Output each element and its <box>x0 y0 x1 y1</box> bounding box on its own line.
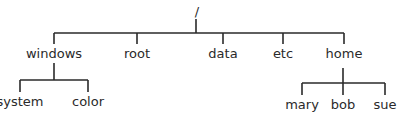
node-root: / <box>195 5 199 18</box>
node-windows: windows <box>26 47 82 60</box>
node-bob: bob <box>331 98 355 111</box>
node-sue: sue <box>373 98 396 111</box>
node-etc: etc <box>273 47 293 60</box>
directory-tree-diagram: / windows root data etc home system colo… <box>0 0 398 119</box>
node-root-dir: root <box>124 47 150 60</box>
node-home: home <box>326 47 363 60</box>
node-mary: mary <box>285 98 319 111</box>
node-data: data <box>208 47 237 60</box>
node-color: color <box>72 95 104 108</box>
node-system: system <box>0 95 44 108</box>
